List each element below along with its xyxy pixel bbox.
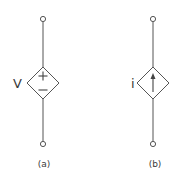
terminal-top: [150, 16, 155, 21]
terminal-bottom: [150, 141, 155, 146]
dependent-current-source: i (b): [131, 16, 169, 169]
variable-label-v: V: [13, 76, 22, 91]
caption-b: (b): [149, 159, 162, 169]
variable-label-i: i: [131, 76, 135, 91]
circuit-diagram: V (a) i (b): [0, 0, 182, 174]
terminal-top: [40, 16, 45, 21]
caption-a: (a): [38, 159, 51, 169]
terminal-bottom: [40, 141, 45, 146]
dependent-voltage-source: V (a): [13, 16, 59, 169]
